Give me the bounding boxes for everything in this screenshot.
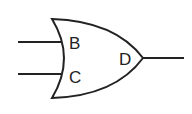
or-gate-svg: B C D xyxy=(0,0,192,114)
label-c: C xyxy=(69,68,81,87)
label-b: B xyxy=(69,34,80,53)
label-d: D xyxy=(119,50,131,69)
or-gate-diagram: B C D xyxy=(0,0,192,114)
